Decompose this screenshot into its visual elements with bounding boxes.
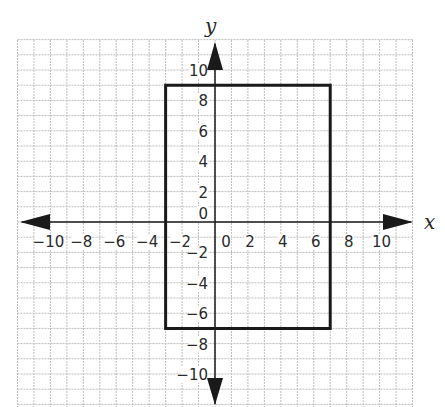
- y-tick-label: 0: [198, 205, 208, 223]
- axes: [20, 42, 413, 405]
- arrow-down-icon: [207, 378, 223, 405]
- x-tick-label: −10: [33, 233, 65, 251]
- y-tick-label: −6: [186, 305, 208, 323]
- y-tick-label: 4: [198, 153, 208, 171]
- y-tick-label: 10: [189, 62, 208, 80]
- x-tick-label: 8: [344, 233, 354, 251]
- y-tick-label: 2: [198, 184, 208, 202]
- x-tick-label: 0: [221, 233, 231, 251]
- y-axis-label: y: [204, 14, 217, 38]
- coordinate-plane: −10−8−6−4−202468101086420−2−4−6−8−10 x y: [0, 0, 445, 407]
- x-tick-label: −4: [136, 233, 158, 251]
- arrow-left-icon: [20, 214, 50, 230]
- arrow-right-icon: [383, 214, 413, 230]
- x-tick-label: 4: [278, 233, 288, 251]
- y-tick-label: −8: [186, 336, 208, 354]
- x-tick-label: 10: [372, 233, 391, 251]
- y-tick-label: −4: [186, 275, 208, 293]
- x-tick-label: −8: [70, 233, 92, 251]
- x-axis-label: x: [424, 210, 435, 234]
- y-tick-label: 6: [198, 123, 208, 141]
- y-tick-label: −10: [176, 366, 208, 384]
- x-tick-label: 6: [311, 233, 321, 251]
- arrow-up-icon: [207, 42, 223, 70]
- tick-labels: −10−8−6−4−202468101086420−2−4−6−8−10: [33, 62, 392, 384]
- x-tick-label: 2: [245, 233, 255, 251]
- y-tick-label: 8: [198, 92, 208, 110]
- y-tick-label: −2: [186, 244, 208, 262]
- x-tick-label: −6: [103, 233, 125, 251]
